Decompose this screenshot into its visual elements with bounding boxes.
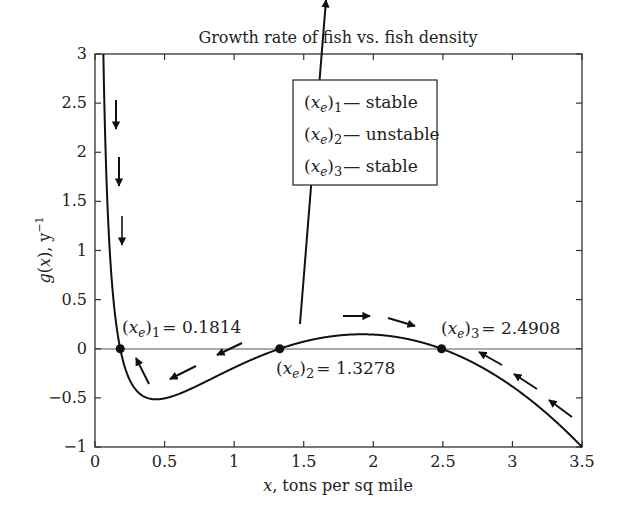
y-tick-label: 3 xyxy=(77,44,87,63)
y-tick-label: 0 xyxy=(77,339,87,358)
legend: (xe)1— stable (xe)2— unstable (xe)3— sta… xyxy=(293,80,440,185)
y-tick-label: 2 xyxy=(77,142,87,161)
eq2-annotation: (xe)2= 1.3278 xyxy=(276,358,395,381)
y-tick-label: 0.5 xyxy=(62,290,87,309)
x-tick-label: 0 xyxy=(90,452,100,471)
arrow-up-left-icon xyxy=(549,400,572,417)
arrow-left-icon xyxy=(170,366,196,379)
arrow-up-left-icon xyxy=(514,374,537,389)
x-tick-label: 3.5 xyxy=(569,452,594,471)
direction-arrows xyxy=(116,0,572,417)
x-tick-label: 1.5 xyxy=(291,452,316,471)
equilibrium-point xyxy=(275,344,284,353)
y-tick-label: 1.5 xyxy=(62,191,87,210)
x-axis-label: x, tons per sq mile xyxy=(263,476,413,495)
chart-title: Growth rate of fish vs. fish density xyxy=(198,28,477,47)
eq3-annotation: (xe)3= 2.4908 xyxy=(441,318,560,341)
arrow-right-icon xyxy=(388,318,415,326)
arrow-up-left-icon xyxy=(136,358,149,384)
y-axis-label: g(x), y−1 xyxy=(33,216,54,283)
y-tick-label: 2.5 xyxy=(62,93,87,112)
eq1-annotation: (xe)1= 0.1814 xyxy=(122,317,241,340)
x-tick-label: 2 xyxy=(368,452,378,471)
x-tick-label: 1 xyxy=(229,452,239,471)
growth-rate-chart: Growth rate of fish vs. fish density 00.… xyxy=(0,0,622,523)
arrow-up-left-icon xyxy=(479,352,502,365)
y-tick-label: −0.5 xyxy=(48,388,87,407)
x-tick-label: 3 xyxy=(507,452,517,471)
x-tick-label: 2.5 xyxy=(430,452,455,471)
y-tick-label: −1 xyxy=(63,437,87,456)
equilibrium-point xyxy=(437,344,446,353)
y-tick-label: 1 xyxy=(77,241,87,260)
x-tick-label: 0.5 xyxy=(152,452,177,471)
equilibrium-point xyxy=(116,344,125,353)
